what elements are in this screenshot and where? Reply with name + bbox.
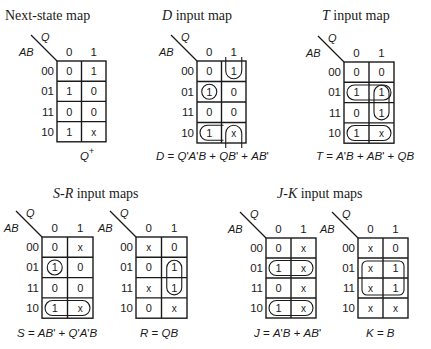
map-title: T input map bbox=[322, 8, 390, 23]
map-cell: 0 bbox=[77, 282, 83, 294]
map-cell: 0 bbox=[146, 261, 152, 273]
map-cell: 1 bbox=[206, 86, 212, 98]
row-header: 10 bbox=[342, 302, 355, 314]
column-header: 1 bbox=[91, 46, 97, 58]
map-cell: x bbox=[368, 303, 373, 314]
row-header: 01 bbox=[328, 86, 341, 98]
map-cell: 1 bbox=[392, 262, 398, 274]
row-header: 00 bbox=[342, 242, 355, 254]
map-cell: 0 bbox=[231, 106, 237, 118]
map-cell: x bbox=[301, 303, 306, 314]
map-cell: x bbox=[368, 263, 373, 274]
row-header: 00 bbox=[328, 66, 341, 78]
row-header: 10 bbox=[120, 302, 133, 314]
row-header: 10 bbox=[250, 302, 263, 314]
row-header: 11 bbox=[329, 107, 341, 119]
row-header: 01 bbox=[120, 261, 133, 273]
column-header: 0 bbox=[367, 223, 373, 235]
row-variable-label: AB bbox=[18, 46, 34, 58]
row-variable-label: AB bbox=[3, 222, 19, 234]
map-cell: 0 bbox=[231, 86, 237, 98]
map-cell: x bbox=[91, 127, 96, 138]
map-cell: 0 bbox=[392, 242, 398, 254]
map-cell: 1 bbox=[275, 302, 281, 314]
map-cell: x bbox=[301, 243, 306, 254]
column-variable-label: Q bbox=[250, 208, 259, 220]
map-cell: 1 bbox=[275, 262, 281, 274]
map-equation: D = Q'A'B + QB' + AB' bbox=[156, 150, 269, 162]
map-equation: S = AB' + Q'A'B bbox=[17, 327, 98, 339]
map-equation: T = A'B + AB' + QB bbox=[316, 150, 414, 162]
row-header: 10 bbox=[328, 127, 341, 139]
map-cell: 1 bbox=[378, 86, 384, 98]
column-variable-label: Q bbox=[181, 31, 190, 43]
map-cell: 0 bbox=[171, 241, 177, 253]
column-header: 0 bbox=[275, 223, 281, 235]
row-header: 00 bbox=[120, 241, 133, 253]
column-header: 1 bbox=[392, 223, 398, 235]
row-header: 00 bbox=[181, 65, 194, 77]
row-header: 01 bbox=[26, 261, 39, 273]
map-equation: J = A'B + AB' bbox=[253, 327, 321, 339]
map-cell: x bbox=[368, 243, 373, 254]
map-cell: 1 bbox=[231, 65, 237, 77]
column-header: 1 bbox=[378, 47, 384, 59]
kmap-d-input: D input mapQAB01000111100110001xD = Q'A'… bbox=[156, 8, 269, 162]
column-header: 0 bbox=[206, 46, 212, 58]
map-title: J-K input maps bbox=[277, 186, 363, 201]
column-header: 1 bbox=[77, 222, 83, 234]
row-header: 00 bbox=[41, 65, 54, 77]
column-header: 0 bbox=[52, 222, 58, 234]
row-header: 01 bbox=[181, 86, 194, 98]
map-cell: 0 bbox=[353, 107, 359, 119]
map-cell: 0 bbox=[91, 106, 97, 118]
map-cell: x bbox=[379, 128, 384, 139]
row-header: 00 bbox=[26, 241, 39, 253]
map-cell: 0 bbox=[91, 85, 97, 97]
map-cell: 0 bbox=[77, 261, 83, 273]
map-cell: 0 bbox=[206, 106, 212, 118]
column-variable-label: Q bbox=[26, 207, 35, 219]
map-cell: 0 bbox=[206, 65, 212, 77]
map-cell: 0 bbox=[146, 302, 152, 314]
kmap-s-input: S-R input mapsQAB01000111100x10001xS = A… bbox=[3, 186, 139, 339]
column-variable-label: Q bbox=[328, 32, 337, 44]
map-cell: x bbox=[146, 242, 151, 253]
row-header: 11 bbox=[42, 106, 54, 118]
map-cell: 1 bbox=[353, 127, 359, 139]
map-cell: x bbox=[78, 303, 83, 314]
map-cell: 0 bbox=[275, 282, 281, 294]
map-cell: 1 bbox=[52, 302, 58, 314]
map-cell: x bbox=[368, 283, 373, 294]
map-cell: x bbox=[172, 303, 177, 314]
column-header: 0 bbox=[66, 46, 72, 58]
row-variable-label: AB bbox=[158, 46, 174, 58]
kmap-k-input: QAB0100011110x0x1x1xxK = B bbox=[319, 208, 408, 339]
row-header: 11 bbox=[27, 282, 39, 294]
map-cell: x bbox=[393, 303, 398, 314]
row-header: 11 bbox=[121, 282, 133, 294]
map-cell: 1 bbox=[171, 261, 177, 273]
kmap-t-input: T input mapQAB01000111100011011xT = A'B … bbox=[305, 8, 414, 162]
map-equation: Q+ bbox=[80, 146, 94, 162]
map-title: D input map bbox=[161, 8, 232, 23]
karnaugh-maps-figure: Next-state mapQAB01000111100110001xQ+D i… bbox=[0, 0, 431, 349]
kmap-r-input: QAB0100011110x001x10xR = QB bbox=[97, 207, 187, 339]
row-header: 10 bbox=[26, 302, 39, 314]
row-variable-label: AB bbox=[305, 47, 321, 59]
map-cell: 0 bbox=[66, 106, 72, 118]
column-variable-label: Q bbox=[342, 208, 351, 220]
column-header: 1 bbox=[300, 223, 306, 235]
map-cell: x bbox=[78, 242, 83, 253]
row-header: 01 bbox=[342, 262, 355, 274]
column-variable-label: Q bbox=[41, 31, 50, 43]
map-cell: 0 bbox=[52, 241, 58, 253]
row-header: 11 bbox=[251, 282, 263, 294]
map-cell: 1 bbox=[91, 65, 97, 77]
column-variable-label: Q bbox=[120, 207, 129, 219]
map-cell: 1 bbox=[206, 127, 212, 139]
column-header: 1 bbox=[171, 222, 177, 234]
map-cell: 0 bbox=[52, 282, 58, 294]
row-header: 11 bbox=[343, 282, 355, 294]
map-title: Next-state map bbox=[5, 8, 90, 23]
